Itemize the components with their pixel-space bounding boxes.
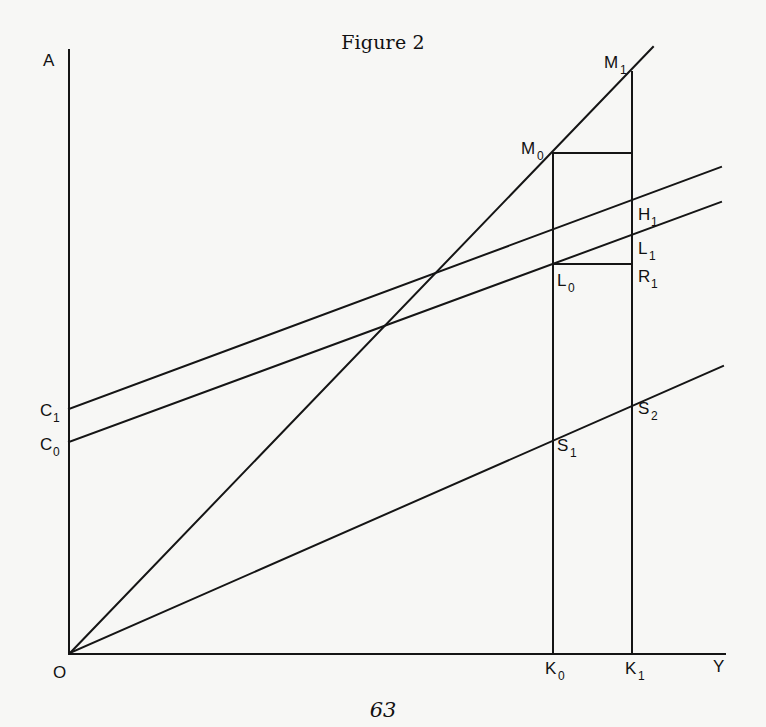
label-k0: K 0 [545,659,565,683]
ray-45-degree [70,47,653,653]
svg-text:M: M [604,53,618,72]
svg-text:0: 0 [558,669,565,683]
svg-text:1: 1 [649,249,656,263]
page-number: 63 [0,698,766,722]
svg-text:S: S [638,399,649,418]
svg-text:S: S [557,436,568,455]
svg-text:R: R [638,267,650,286]
svg-text:C: C [40,435,52,454]
label-m0: M 0 [521,139,544,163]
svg-text:1: 1 [638,669,645,683]
svg-text:K: K [545,659,557,678]
label-r1: R 1 [638,267,658,291]
label-k1: K 1 [625,659,645,683]
svg-text:K: K [625,659,637,678]
svg-text:1: 1 [651,215,658,229]
svg-text:2: 2 [651,409,658,423]
label-m1: M 1 [604,53,627,77]
label-c0: C 0 [40,435,60,459]
svg-text:1: 1 [570,446,577,460]
svg-text:1: 1 [53,411,60,425]
svg-text:1: 1 [651,277,658,291]
svg-text:L: L [638,239,647,258]
label-s1: S 1 [557,436,577,460]
line-c1-h1 [69,167,721,409]
svg-text:L: L [557,271,566,290]
svg-text:C: C [40,401,52,420]
label-s2: S 2 [638,399,658,423]
axis-label-a: A [43,51,55,70]
diagram-canvas: A Y O M 1 M 0 H 1 L 1 R 1 L 0 C 1 C 0 S … [0,0,766,727]
svg-text:0: 0 [568,281,575,295]
label-h1: H 1 [638,205,658,229]
label-l1: L 1 [638,239,656,263]
svg-text:H: H [638,205,650,224]
ray-s1-s2 [70,366,723,653]
axis-label-y: Y [713,657,724,676]
svg-text:0: 0 [53,445,60,459]
label-l0: L 0 [557,271,575,295]
line-c0-l1 [69,202,721,442]
label-c1: C 1 [40,401,60,425]
origin-label: O [53,663,66,682]
svg-text:1: 1 [620,63,627,77]
svg-text:0: 0 [537,149,544,163]
svg-text:M: M [521,139,535,158]
